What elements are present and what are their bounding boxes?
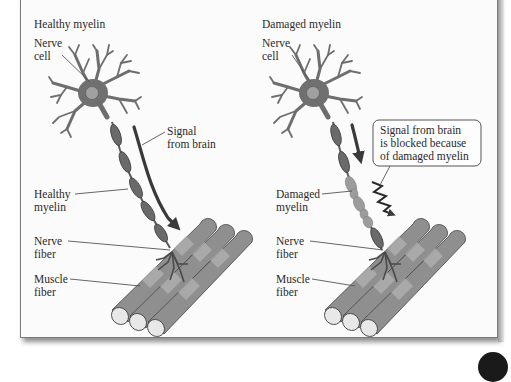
label-nerve-cell-line2-damaged: cell: [262, 50, 279, 62]
label-damaged-myelin-line1: Damaged: [276, 188, 320, 201]
label-nerve-cell-line1-damaged: Nerve: [262, 37, 290, 49]
blocked-signal-arrow: [352, 125, 360, 158]
lightning-bolt-icon: [372, 182, 392, 214]
label-nerve-fiber-line2-damaged: fiber: [276, 248, 298, 260]
label-signal-line1: Signal: [167, 125, 196, 138]
callout-line3: of damaged myelin: [380, 150, 469, 163]
label-muscle-fiber-line2: fiber: [34, 286, 56, 298]
label-muscle-fiber-line1-damaged: Muscle: [276, 273, 310, 285]
label-nerve-cell-line2: cell: [34, 50, 51, 62]
label-healthy-myelin-line1: Healthy: [34, 188, 71, 201]
damaged-panel: Damaged myelin Signal from brain is bloc…: [262, 18, 481, 340]
callout-line1: Signal from brain: [380, 124, 461, 137]
label-nerve-cell-line1: Nerve: [34, 37, 62, 49]
label-healthy-myelin-line2: myelin: [34, 201, 66, 214]
damaged-muscle-fibers: [321, 218, 466, 340]
healthy-panel: Healthy myelin Nerve cell Signal from br…: [34, 18, 253, 340]
label-nerve-fiber-line2: fiber: [34, 248, 56, 260]
label-nerve-fiber-line1-damaged: Nerve: [276, 235, 304, 247]
callout-line2: is blocked because: [380, 137, 466, 149]
label-damaged-myelin-line2: myelin: [276, 201, 308, 214]
label-nerve-fiber-line1: Nerve: [34, 235, 62, 247]
label-muscle-fiber-line1: Muscle: [34, 273, 68, 285]
healthy-panel-title: Healthy myelin: [34, 18, 105, 31]
label-muscle-fiber-line2-damaged: fiber: [276, 286, 298, 298]
damaged-nerve-cell: [270, 45, 362, 137]
healthy-muscle-fibers: [108, 218, 253, 340]
damaged-myelin-segments: [343, 175, 375, 230]
label-signal-line2: from brain: [167, 138, 216, 150]
damaged-panel-title: Damaged myelin: [262, 18, 341, 31]
healthy-nerve-cell: [49, 45, 141, 137]
